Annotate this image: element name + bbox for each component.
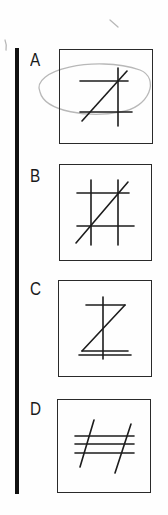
- option-d-figure: [0, 0, 168, 515]
- answer-options-panel: A B C D: [0, 0, 168, 515]
